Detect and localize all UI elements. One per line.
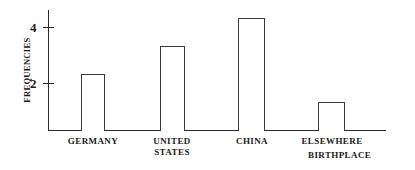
category-label-united-states: UNITED STATES <box>137 136 207 158</box>
y-tick-mark-4 <box>43 27 54 28</box>
bar-united-states <box>160 46 185 131</box>
bar-chart: 4 2 FREQUENCIES GERMANY UNITED STATES CH… <box>0 0 415 170</box>
y-axis-line <box>48 10 49 131</box>
bar-china <box>238 18 265 131</box>
category-label-elsewhere: ELSEWHERE <box>293 136 371 147</box>
category-label-china: CHINA <box>217 136 287 147</box>
bar-germany <box>81 74 105 131</box>
category-label-germany: GERMANY <box>53 136 133 147</box>
y-axis-title: FREQUENCIES <box>22 22 32 118</box>
x-axis-title: BIRTHPLACE <box>308 150 371 160</box>
y-tick-mark-2 <box>43 83 54 84</box>
bar-elsewhere <box>318 102 345 131</box>
